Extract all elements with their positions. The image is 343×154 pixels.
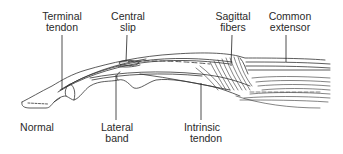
- label-line: tendon: [42, 22, 82, 33]
- label-terminal-tendon: Terminal tendon: [42, 11, 82, 33]
- label-intrinsic-tendon: Intrinsic tendon: [182, 122, 222, 144]
- central-slip-leader: [126, 35, 127, 62]
- label-central-slip: Central slip: [111, 11, 145, 33]
- label-line: band: [101, 133, 133, 144]
- label-line: extensor: [269, 22, 312, 33]
- label-normal: Normal: [20, 122, 54, 133]
- label-line: slip: [111, 22, 145, 33]
- label-line: fibers: [215, 22, 250, 33]
- label-line: tendon: [182, 133, 222, 144]
- label-lateral-band: Lateral band: [101, 122, 133, 144]
- label-common-extensor: Common extensor: [269, 11, 312, 33]
- label-line: Normal: [20, 122, 54, 133]
- sagittal-fibers-leader: [231, 35, 232, 66]
- label-sagittal-fibers: Sagittal fibers: [215, 11, 250, 33]
